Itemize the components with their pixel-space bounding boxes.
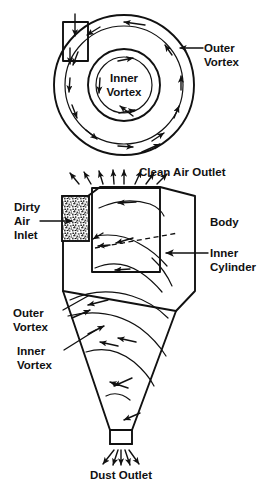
dirty-air-inlet-label-line1: Dirty xyxy=(14,201,41,213)
inner-vortex-label-side-line2: Vortex xyxy=(17,359,53,371)
inner-cylinder-label-line2: Cylinder xyxy=(210,261,257,273)
cyclone-separator-diagram: Outer Vortex Inner Vortex Clean Air Outl… xyxy=(0,0,277,484)
outer-vortex-label-side-line1: Outer xyxy=(13,307,44,319)
inner-vortex-label-top-line1: Inner xyxy=(110,72,139,84)
outer-vortex-label-top-line1: Outer xyxy=(204,42,235,54)
dirty-air-inlet-box xyxy=(62,196,89,241)
dust-outlet-label: Dust Outlet xyxy=(90,469,152,481)
dirty-air-inlet-label-line3: Inlet xyxy=(14,229,38,241)
inner-vortex-label-top-line2: Vortex xyxy=(107,86,143,98)
inner-cylinder-label-line1: Inner xyxy=(210,247,239,259)
body-callout: Body xyxy=(210,216,239,228)
outer-vortex-label-top-line2: Vortex xyxy=(204,56,240,68)
body-label: Body xyxy=(210,216,239,228)
clean-air-outlet-label: Clean Air Outlet xyxy=(139,166,226,178)
dirty-air-inlet-label-line2: Air xyxy=(14,215,31,227)
inner-vortex-label-side-line1: Inner xyxy=(17,345,46,357)
outer-vortex-label-side-line2: Vortex xyxy=(13,321,49,333)
